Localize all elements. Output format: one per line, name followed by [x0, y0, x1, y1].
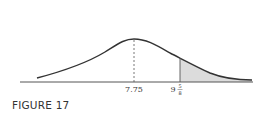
cutoff-tick-label-denominator: 8 — [178, 90, 181, 96]
shaded-tail-region — [180, 58, 252, 82]
mean-tick-label: 7.75 — [125, 85, 143, 94]
cutoff-tick-label-numerator: 5 — [178, 83, 181, 89]
bell-curve — [37, 39, 252, 80]
figure-caption: FIGURE 17 — [12, 99, 69, 111]
cutoff-tick-label-whole: 9 — [170, 85, 175, 94]
